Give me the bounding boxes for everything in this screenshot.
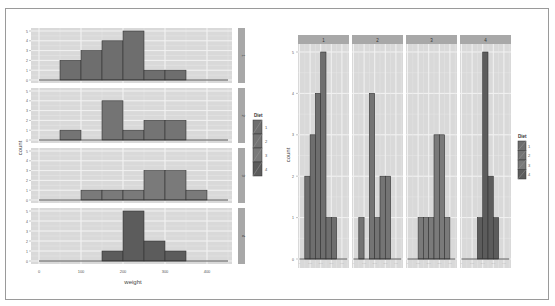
svg-text:Diet: Diet (254, 113, 263, 118)
histogram-bar (123, 211, 144, 261)
histogram-bar (429, 218, 434, 259)
y-tick-label: 0 (26, 139, 28, 143)
facet-column-diet-4: 40100200300400 (460, 35, 511, 268)
y-tick-label: 3 (26, 230, 28, 234)
svg-text:400: 400 (502, 262, 507, 265)
legend-label: 4 (265, 167, 268, 172)
svg-text:Diet: Diet (518, 134, 527, 139)
histogram-bar (144, 171, 165, 200)
chart-canvas: 0123451012345201234530123454010020030040… (0, 0, 555, 306)
svg-text:100: 100 (362, 262, 367, 265)
y-tick-label: 0 (292, 258, 294, 262)
histogram-bar (445, 218, 450, 259)
facet-column-diet-1: 10100200300400 (298, 35, 349, 268)
svg-text:200: 200 (481, 262, 486, 265)
legend-label: 2 (265, 139, 268, 144)
histogram-bar (165, 251, 186, 261)
y-tick-label: 1 (26, 129, 28, 133)
y-tick-label: 3 (26, 109, 28, 113)
histogram-bar (102, 251, 123, 261)
histogram-bar (315, 93, 320, 259)
svg-text:200: 200 (427, 262, 432, 265)
histogram-bar (60, 60, 81, 80)
facet-panel-diet-3: 0123453 (26, 148, 245, 203)
legend-label: 1 (528, 144, 531, 149)
y-axis-title: count (17, 140, 23, 155)
histogram-bar (81, 190, 102, 200)
histogram-bar (483, 52, 488, 259)
histogram-bar (123, 190, 144, 200)
histogram-bar (165, 70, 186, 80)
histogram-bar (102, 101, 123, 140)
legend-diet: Diet1234 (518, 134, 531, 179)
histogram-bar (81, 51, 102, 80)
y-tick-label: 1 (26, 250, 28, 254)
svg-text:100: 100 (470, 262, 475, 265)
x-tick-label: 300 (162, 269, 169, 274)
facet-panel-diet-2: 0123452 (26, 88, 245, 143)
histogram-bar (493, 218, 498, 259)
svg-text:400: 400 (340, 262, 345, 265)
histogram-bar (369, 93, 374, 259)
y-tick-label: 2 (26, 119, 28, 123)
legend-label: 2 (528, 153, 531, 158)
y-tick-label: 0 (26, 260, 28, 264)
y-tick-label: 3 (26, 49, 28, 53)
y-axis-title: count (285, 147, 291, 162)
histogram-bar (423, 218, 428, 259)
histogram-bar (434, 135, 439, 259)
histogram-bar (123, 31, 144, 80)
histogram-bar (186, 190, 207, 200)
right-histogram-chart: 1010020030040020100200300400301002003004… (285, 35, 531, 268)
facet-column-diet-3: 30100200300400 (406, 35, 457, 268)
histogram-bar (418, 218, 423, 259)
histogram-bar (144, 70, 165, 80)
svg-text:100: 100 (416, 262, 421, 265)
svg-text:400: 400 (448, 262, 453, 265)
histogram-bar (165, 171, 186, 200)
y-tick-label: 0 (26, 79, 28, 83)
histogram-bar (305, 176, 310, 259)
y-tick-label: 4 (292, 92, 294, 96)
y-tick-label: 4 (26, 220, 28, 224)
y-tick-label: 1 (26, 69, 28, 73)
histogram-bar (488, 176, 493, 259)
histogram-bar (439, 135, 444, 259)
y-tick-label: 5 (292, 51, 294, 55)
y-tick-label: 0 (26, 199, 28, 203)
y-tick-label: 4 (26, 99, 28, 103)
facet-column-diet-2: 20100200300400 (352, 35, 403, 268)
y-tick-label: 5 (26, 90, 28, 94)
y-tick-label: 2 (292, 175, 294, 179)
histogram-bar (359, 218, 364, 259)
svg-text:300: 300 (383, 262, 388, 265)
svg-text:400: 400 (394, 262, 399, 265)
y-tick-label: 3 (26, 169, 28, 173)
svg-text:300: 300 (491, 262, 496, 265)
svg-text:200: 200 (319, 262, 324, 265)
legend-label: 4 (528, 172, 531, 177)
histogram-bar (102, 41, 123, 80)
x-axis-title: weight (123, 279, 142, 285)
y-tick-label: 2 (26, 179, 28, 183)
histogram-bar (102, 190, 123, 200)
y-tick-label: 2 (26, 59, 28, 63)
legend-label: 3 (265, 153, 268, 158)
y-tick-label: 1 (292, 216, 294, 220)
histogram-bar (123, 130, 144, 140)
facet-panel-diet-4: 0123454 (26, 208, 245, 264)
legend-diet: Diet1234 (253, 113, 268, 176)
legend-label: 3 (528, 163, 531, 168)
x-tick-label: 400 (204, 269, 211, 274)
svg-text:300: 300 (329, 262, 334, 265)
histogram-bar (326, 218, 331, 259)
histogram-bar (310, 135, 315, 259)
left-histogram-chart: 0123451012345201234530123454010020030040… (17, 28, 268, 285)
svg-text:300: 300 (437, 262, 442, 265)
histogram-bar (477, 218, 482, 259)
histogram-bar (60, 130, 81, 140)
histogram-bar (165, 120, 186, 140)
histogram-bar (331, 218, 336, 259)
y-tick-label: 4 (26, 159, 28, 163)
histogram-bar (321, 52, 326, 259)
